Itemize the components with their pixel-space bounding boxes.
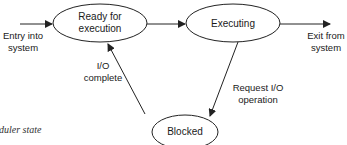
exit-label-line2: system: [304, 42, 347, 54]
state-ready-label-line1: Ready for: [70, 11, 130, 23]
io-complete-label-line1: I/O: [78, 60, 128, 72]
request-io-label: Request I/O operation: [228, 82, 288, 106]
exit-label-line1: Exit from: [304, 30, 347, 42]
io-complete-label: I/O complete: [78, 60, 128, 84]
exit-label: Exit from system: [304, 30, 347, 54]
state-blocked-label: Blocked: [158, 126, 212, 138]
entry-label: Entry into system: [0, 30, 46, 54]
request-io-label-line2: operation: [228, 94, 288, 106]
state-ready-label-line2: execution: [70, 23, 130, 35]
request-io-label-line1: Request I/O: [228, 82, 288, 94]
entry-label-line1: Entry into: [0, 30, 46, 42]
diagram-graphics: [0, 0, 347, 145]
state-ready-label: Ready for execution: [70, 11, 130, 35]
entry-label-line2: system: [0, 42, 46, 54]
io-complete-label-line2: complete: [78, 72, 128, 84]
figure-caption: duler state: [0, 124, 42, 135]
state-executing-label: Executing: [200, 18, 266, 30]
state-diagram: Ready for execution Executing Blocked En…: [0, 0, 347, 145]
